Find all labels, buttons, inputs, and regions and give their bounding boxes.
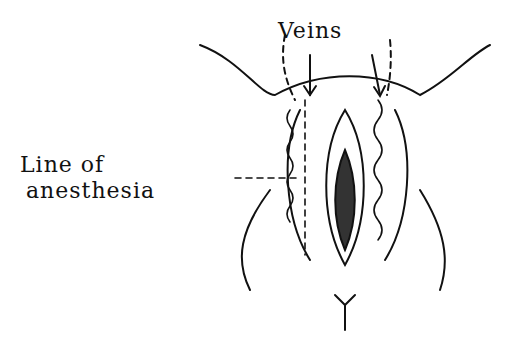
veins-label: Veins — [278, 18, 342, 43]
anatomical-diagram: Veins Line of anesthesia — [0, 0, 515, 355]
line-of-label: Line of — [20, 152, 104, 177]
anesthesia-label: anesthesia — [26, 178, 155, 203]
